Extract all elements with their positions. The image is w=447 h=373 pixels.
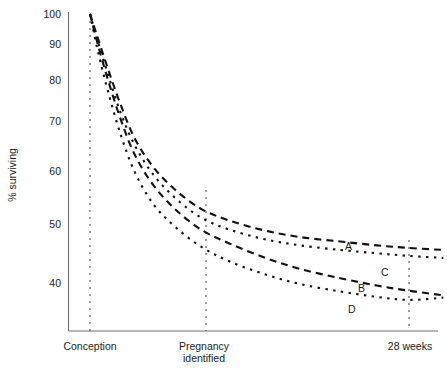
x-axis-tick-labels: Conception Pregnancyidentified 28 weeks [63, 340, 432, 364]
y-tick-label-90: 90 [49, 38, 61, 50]
y-axis-tick-labels: 100 90 80 70 60 50 40 [43, 8, 61, 289]
y-tick-label-40: 40 [49, 277, 61, 289]
series-label-c: C [381, 266, 389, 278]
y-tick-label-80: 80 [49, 74, 61, 86]
curve-c [90, 14, 443, 258]
x-tick-label-28-weeks: 28 weeks [388, 340, 432, 352]
curve-d [90, 14, 443, 300]
y-tick-label-70: 70 [49, 115, 61, 127]
y-tick-label-100: 100 [43, 8, 61, 20]
series-label-a: A [345, 240, 352, 252]
x-tick-label-pregnancy-identified: Pregnancyidentified [179, 340, 230, 364]
series-label-b: B [358, 282, 365, 294]
series-inline-labels: A C B D [345, 240, 389, 315]
series-label-d: D [348, 303, 356, 315]
chart-canvas: 100 90 80 70 60 50 40 % surviving A C B … [0, 0, 447, 373]
survival-chart-figure: 100 90 80 70 60 50 40 % surviving A C B … [0, 0, 447, 373]
curve-a [90, 14, 443, 250]
y-tick-label-60: 60 [49, 165, 61, 177]
y-axis-title: % surviving [6, 148, 18, 202]
curve-group [90, 14, 443, 300]
curve-b [90, 14, 443, 295]
x-tick-label-conception: Conception [63, 340, 116, 352]
y-tick-label-50: 50 [49, 218, 61, 230]
